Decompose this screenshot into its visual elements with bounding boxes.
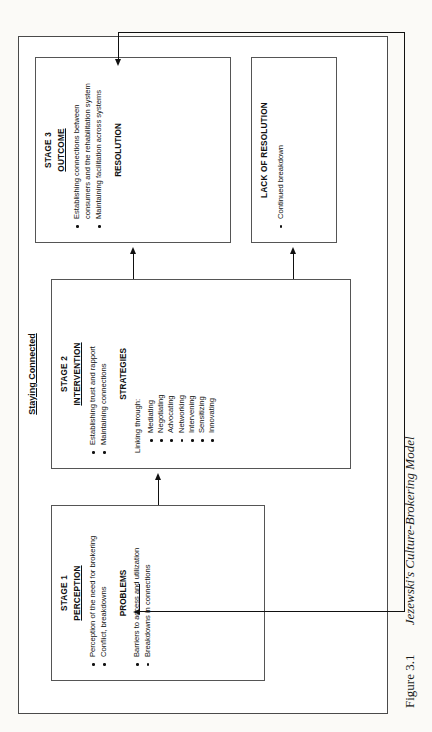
staying-connected-label: Staying Connected — [27, 279, 37, 469]
arrow-stage2-to-lack-head — [290, 247, 296, 254]
figure-number: Figure 3.1 — [402, 655, 417, 708]
list-item: Mediating — [146, 289, 156, 443]
lack-of-resolution-heading: LACK OF RESOLUTION — [259, 67, 272, 233]
stage-3-label: STAGE 3 — [43, 67, 56, 233]
list-item: Conflict, breakdowns — [99, 515, 110, 667]
arrow-stage2-to-stage3-line — [133, 251, 134, 279]
stage-1-box: STAGE 1 PERCEPTION Perception of the nee… — [51, 505, 265, 681]
list-item: Continued breakdown — [276, 67, 287, 229]
lack-of-resolution-box: LACK OF RESOLUTION Continued breakdown — [251, 57, 337, 243]
figure-canvas: INTERVENING CONDITIONS Type of disabilit… — [0, 0, 432, 732]
list-item: Innovating — [207, 289, 217, 443]
arrow-stage1-to-stage2-head — [155, 473, 161, 480]
stage-2-label: STAGE 2 — [59, 289, 72, 459]
list-item: Sensitizing — [197, 289, 207, 443]
list-item: Establishing connections between consume… — [72, 67, 94, 229]
stage-2-strategies: Mediating Negotiating Advocating Network… — [146, 289, 218, 459]
rotated-page-canvas: INTERVENING CONDITIONS Type of disabilit… — [0, 0, 432, 732]
model-outer-container: STAGE 1 PERCEPTION Perception of the nee… — [18, 36, 388, 714]
list-item: Breakdowns in connections — [143, 515, 154, 667]
feedback-loop-outcome-line-right — [118, 32, 405, 33]
list-item: Establishing trust and rapport — [88, 289, 99, 455]
stage-3-heading: OUTCOME — [56, 67, 69, 233]
list-item: Maintaining connections — [99, 289, 110, 455]
stage-1-sub-heading: PROBLEMS — [119, 515, 128, 671]
list-item: Networking — [177, 289, 187, 443]
list-item: Maintaining facilitation across systems — [94, 67, 105, 229]
stage-3-items: Establishing connections between consume… — [72, 67, 104, 233]
stage-1-label: STAGE 1 — [59, 515, 72, 671]
feedback-loop-outcome-line-return — [118, 32, 119, 60]
stage-2-items: Establishing trust and rapport Maintaini… — [88, 289, 110, 459]
list-item: Intervening — [187, 289, 197, 443]
feedback-loop-lack-line-left — [139, 611, 405, 612]
stage-2-sub-heading: STRATEGIES — [119, 289, 128, 459]
stage-1-sub-items: Barriers to access and utilization Break… — [132, 515, 154, 671]
lack-of-resolution-items: Continued breakdown — [276, 67, 287, 233]
stage-1-heading: PERCEPTION — [72, 515, 85, 671]
arrow-stage2-to-stage3-head — [130, 247, 136, 254]
stage-1-items: Perception of the need for brokering Con… — [88, 515, 110, 671]
feedback-loop-lack-line-return — [139, 584, 140, 612]
figure-title: Jezewski's Culture-Brokering Model — [402, 436, 417, 625]
list-item: Barriers to access and utilization — [132, 515, 143, 667]
stage-2-box: STAGE 2 INTERVENTION Establishing trust … — [51, 279, 351, 469]
arrow-stage1-to-stage2-line — [158, 477, 159, 505]
feedback-loop-lack-head — [133, 610, 140, 616]
stage-2-heading: INTERVENTION — [72, 289, 85, 459]
stage-2-lead-in: Linking through: — [133, 289, 142, 453]
stage-3-box: STAGE 3 OUTCOME Establishing connections… — [35, 57, 231, 243]
arrow-stage2-to-lack-line — [293, 251, 294, 279]
stage-3-sub-heading: RESOLUTION — [114, 67, 123, 233]
feedback-loop-outcome-line-top — [404, 32, 405, 172]
list-item: Perception of the need for brokering — [88, 515, 99, 667]
list-item: Advocating — [166, 289, 176, 443]
feedback-loop-outcome-head — [115, 59, 121, 66]
figure-caption: Figure 3.1 Jezewski's Culture-Brokering … — [402, 436, 418, 708]
list-item: Negotiating — [156, 289, 166, 443]
